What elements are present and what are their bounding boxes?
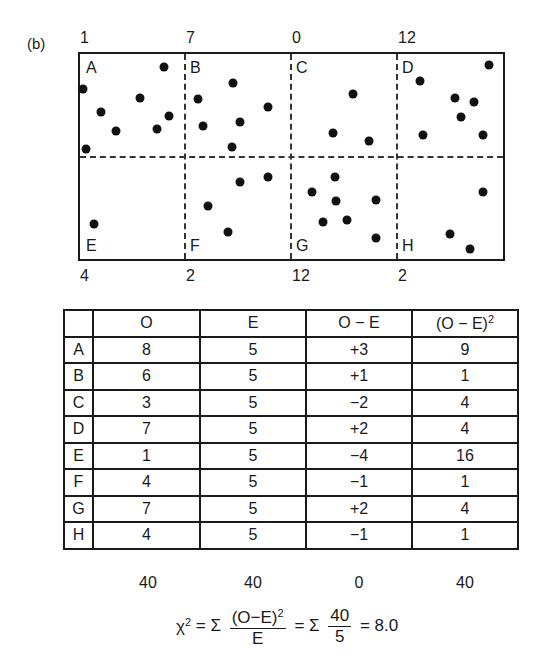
equals-sigma-2: = Σ (294, 616, 319, 636)
cell-difference: −2 (306, 390, 412, 417)
count-bottom-h: 2 (398, 268, 407, 284)
dot (97, 108, 106, 117)
cell-difference: −1 (306, 469, 412, 496)
total-observed: 40 (139, 574, 157, 592)
table-row: G 7 5 +2 4 (64, 496, 518, 523)
dot (419, 131, 428, 140)
cell-expected: 5 (200, 416, 306, 443)
dot (329, 129, 338, 138)
cell-squared: 1 (412, 363, 518, 390)
header-expected: E (200, 310, 306, 337)
table-row: B 6 5 +1 1 (64, 363, 518, 390)
total-difference: 0 (355, 574, 364, 592)
quadrat-label-a: A (86, 60, 97, 76)
table-header-row: O E O − E (O − E)2 (64, 310, 518, 337)
totals-row: 40 40 0 40 (0, 574, 540, 594)
chi-square-table: O E O − E (O − E)2 A 8 5 +3 9 B 6 5 +1 1… (63, 309, 519, 550)
fraction-2-numerator: 40 (328, 606, 351, 627)
cell-difference: +3 (306, 337, 412, 364)
cell-expected: 5 (200, 363, 306, 390)
dot (446, 230, 455, 239)
dot (479, 188, 488, 197)
cell-quadrat: A (64, 337, 93, 364)
dot (264, 103, 273, 112)
cell-difference: +2 (306, 416, 412, 443)
dot (136, 94, 145, 103)
quadrat-label-f: F (190, 238, 200, 254)
dot (82, 145, 91, 154)
dot (228, 143, 237, 152)
cell-squared: 9 (412, 337, 518, 364)
formula-result: = 8.0 (360, 616, 398, 636)
cell-observed: 7 (93, 416, 200, 443)
dot (466, 245, 475, 254)
header-difference: O − E (306, 310, 412, 337)
cell-observed: 8 (93, 337, 200, 364)
cell-quadrat: G (64, 496, 93, 523)
quadrat-label-b: B (190, 60, 201, 76)
table-row: E 1 5 −4 16 (64, 443, 518, 470)
dot (79, 85, 88, 94)
dot (479, 131, 488, 140)
dot (332, 197, 341, 206)
cell-observed: 3 (93, 390, 200, 417)
dot (416, 77, 425, 86)
dot (331, 173, 340, 182)
cell-quadrat: C (64, 390, 93, 417)
cell-squared: 1 (412, 469, 518, 496)
dot (236, 118, 245, 127)
fraction-1-numerator: (O−E)2 (230, 603, 286, 629)
total-squared: 40 (456, 574, 474, 592)
header-squared: (O − E)2 (412, 310, 518, 337)
figure-label: (b) (27, 36, 45, 51)
chi-square-formula: χ2 = Σ (O−E)2 E = Σ 40 5 = 8.0 (176, 603, 398, 647)
quadrat-label-c: C (296, 60, 308, 76)
count-bottom-f: 2 (186, 268, 195, 284)
cell-squared: 4 (412, 390, 518, 417)
cell-expected: 5 (200, 469, 306, 496)
cell-quadrat: E (64, 443, 93, 470)
dot (90, 220, 99, 229)
cell-difference: +1 (306, 363, 412, 390)
table-row: H 4 5 −1 1 (64, 522, 518, 549)
cell-difference: −1 (306, 522, 412, 549)
cell-expected: 5 (200, 522, 306, 549)
dot (451, 94, 460, 103)
count-top-c: 0 (292, 30, 301, 46)
header-observed: O (93, 310, 200, 337)
quadrat-label-h: H (402, 238, 414, 254)
quadrat-label-e: E (86, 238, 97, 254)
dot (372, 234, 381, 243)
dot (470, 98, 479, 107)
dot (229, 79, 238, 88)
count-bottom-g: 12 (292, 268, 310, 284)
dot (264, 173, 273, 182)
total-expected: 40 (244, 574, 262, 592)
cell-squared: 16 (412, 443, 518, 470)
cell-observed: 4 (93, 469, 200, 496)
fraction-2-denominator: 5 (328, 627, 351, 647)
fraction-1-denominator: E (230, 629, 286, 649)
table-row: A 8 5 +3 9 (64, 337, 518, 364)
dot (204, 202, 213, 211)
count-top-b: 7 (186, 30, 195, 46)
cell-observed: 1 (93, 443, 200, 470)
dot (372, 196, 381, 205)
dot (199, 122, 208, 131)
dot (160, 63, 169, 72)
cell-quadrat: D (64, 416, 93, 443)
cell-observed: 6 (93, 363, 200, 390)
dot (153, 125, 162, 134)
dot (349, 90, 358, 99)
dot (224, 228, 233, 237)
equals-sigma-1: = Σ (196, 616, 221, 636)
quadrat-grid: A B C D E F G H (78, 52, 505, 261)
quadrat-label-d: D (402, 60, 414, 76)
cell-observed: 4 (93, 522, 200, 549)
divider-h (80, 156, 503, 158)
cell-expected: 5 (200, 390, 306, 417)
cell-quadrat: H (64, 522, 93, 549)
dot (319, 218, 328, 227)
dot (236, 178, 245, 187)
cell-difference: −4 (306, 443, 412, 470)
